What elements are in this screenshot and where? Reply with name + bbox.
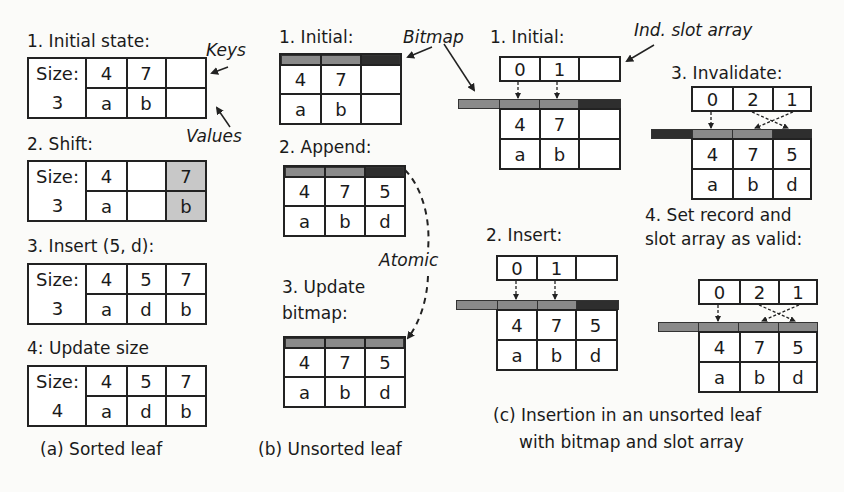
a-step3-leaf: Size: 3 4 5 7 a d b <box>27 263 207 325</box>
c-step4-slot-array: 0 2 1 <box>698 279 818 305</box>
size-value: 3 <box>29 191 86 220</box>
key-cell: 7 <box>167 367 205 395</box>
b-step1-title: 1. Initial: <box>279 27 353 47</box>
value-cell: b <box>538 341 575 369</box>
bitmap-bit <box>658 322 699 332</box>
value-cell: a <box>87 89 126 117</box>
bitmap-bit <box>456 300 498 310</box>
value-cell: b <box>734 170 772 198</box>
slot-cell: 2 <box>741 281 778 303</box>
a-step2-title: 2. Shift: <box>27 134 93 154</box>
c-step3-title: 3. Invalidate: <box>671 63 782 83</box>
key-cell: 4 <box>87 367 126 395</box>
slot-cell: 0 <box>501 58 539 80</box>
value-cell <box>362 95 400 123</box>
value-cell: a <box>285 378 324 406</box>
slot-array-annotation: Ind. slot array <box>634 20 752 40</box>
b-step1-leaf: 4 7 a b <box>279 53 402 125</box>
size-label: Size: <box>29 265 86 294</box>
key-cell: 7 <box>167 265 205 293</box>
c-step4-title-line2: slot array as valid: <box>645 229 802 249</box>
slot-cell: 2 <box>734 88 772 110</box>
a-step3-title: 3. Insert (5, d): <box>27 236 154 256</box>
value-cell: b <box>167 295 205 323</box>
value-cell: a <box>281 95 320 123</box>
slot-cell <box>577 257 614 279</box>
c-step1-title: 1. Initial: <box>490 27 564 47</box>
value-cell: a <box>693 170 732 198</box>
value-cell: b <box>326 207 364 235</box>
value-cell: a <box>87 295 126 323</box>
panel-c-caption-line2: with bitmap and slot array <box>519 431 744 453</box>
a-step1-title: 1. Initial state: <box>27 31 150 51</box>
value-cell <box>580 140 617 168</box>
bitmap-bit <box>458 99 500 109</box>
value-cell: d <box>774 170 810 198</box>
a-step4-title: 4: Update size <box>27 338 149 358</box>
key-cell: 7 <box>326 349 364 376</box>
slot-cell: 0 <box>700 281 739 303</box>
c-step1-slot-array: 0 1 <box>499 56 621 82</box>
slot-pointer-icon <box>755 112 793 128</box>
c-step3-slot-array: 0 2 1 <box>691 86 812 112</box>
b-step2-leaf: 4 7 5 a b d <box>283 165 406 237</box>
key-cell: 7 <box>322 66 360 93</box>
b-step3-leaf: 4 7 5 a b d <box>283 336 406 408</box>
a-step2-leaf: Size: 3 4 7 a b <box>27 160 207 222</box>
bitmap-annotation: Bitmap <box>403 27 464 47</box>
key-cell: 7 <box>541 110 578 138</box>
slot-cell: 1 <box>774 88 810 110</box>
slot-pointer-icon <box>759 305 795 321</box>
values-annotation: Values <box>186 126 242 146</box>
key-cell: 7 <box>326 178 364 205</box>
size-value: 4 <box>29 396 86 425</box>
key-cell: 7 <box>127 59 165 87</box>
value-cell: a <box>87 192 126 220</box>
value-cell: d <box>127 295 165 323</box>
key-cell: 5 <box>780 333 816 361</box>
c-step2-slot-array: 0 1 <box>496 255 618 281</box>
value-cell: a <box>498 341 536 369</box>
key-cell: 4 <box>87 59 126 87</box>
key-cell: 7 <box>167 162 205 190</box>
size-value: 3 <box>29 88 86 117</box>
slot-cell <box>580 58 617 80</box>
key-cell: 5 <box>127 367 165 395</box>
key-cell: 4 <box>285 349 324 376</box>
panel-a-caption: (a) Sorted leaf <box>40 438 162 460</box>
key-cell: 4 <box>281 66 320 93</box>
c-step4-title-line1: 4. Set record and <box>645 205 792 225</box>
key-cell <box>362 66 400 93</box>
b-step2-title: 2. Append: <box>279 137 372 157</box>
value-cell: b <box>541 140 578 168</box>
c-step1-leaf: 4 7 a b <box>499 108 621 170</box>
key-cell: 4 <box>87 265 126 293</box>
value-cell: d <box>780 363 816 391</box>
slot-cell: 1 <box>780 281 816 303</box>
atomic-annotation: Atomic <box>379 250 438 270</box>
slot-cell: 0 <box>498 257 536 279</box>
panel-c-caption-line1: (c) Insertion in an unsorted leaf <box>493 404 761 426</box>
values-arrow-icon <box>217 108 230 127</box>
a-step4-leaf: Size: 4 4 5 7 a d b <box>27 365 207 427</box>
slot-cell: 1 <box>538 257 575 279</box>
keys-arrow-icon <box>212 67 228 73</box>
key-cell: 7 <box>734 140 772 168</box>
size-value: 3 <box>29 294 86 323</box>
key-cell: 4 <box>693 140 732 168</box>
bitmap-bit <box>651 129 693 139</box>
c-step2-leaf: 4 7 5 a b d <box>496 309 618 371</box>
value-cell: b <box>127 89 165 117</box>
key-cell: 7 <box>538 311 575 339</box>
value-cell: b <box>741 363 778 391</box>
value-cell: a <box>87 397 126 425</box>
value-cell: b <box>326 378 364 406</box>
key-cell: 4 <box>498 311 536 339</box>
key-cell <box>127 162 165 190</box>
key-cell: 4 <box>87 162 126 190</box>
value-cell: d <box>366 207 404 235</box>
panel-b-caption: (b) Unsorted leaf <box>258 438 402 460</box>
value-cell: d <box>127 397 165 425</box>
slot-pointer-icon <box>762 305 799 321</box>
value-cell: a <box>700 363 739 391</box>
